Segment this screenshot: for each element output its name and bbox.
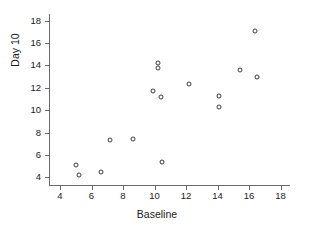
- y-tick-label: 6: [19, 150, 41, 160]
- data-point: [151, 89, 156, 94]
- y-tick-mark: [45, 43, 49, 44]
- y-tick-mark: [45, 65, 49, 66]
- data-point: [160, 159, 165, 164]
- x-tick-label: 16: [244, 191, 255, 201]
- y-tick-mark: [45, 110, 49, 111]
- data-point: [76, 172, 81, 177]
- data-point: [253, 28, 258, 33]
- x-tick-label: 6: [89, 191, 94, 201]
- scatter-plot: 4681012141618 4681012141618 Baseline Day…: [0, 0, 314, 230]
- data-point: [187, 82, 192, 87]
- y-tick-label: 16: [19, 38, 41, 48]
- y-tick-label: 18: [19, 16, 41, 26]
- data-point: [237, 67, 242, 72]
- data-point: [99, 169, 104, 174]
- y-tick-label: 8: [19, 128, 41, 138]
- data-point: [130, 137, 135, 142]
- data-point: [158, 94, 163, 99]
- y-tick-mark: [45, 88, 49, 89]
- x-tick-label: 12: [181, 191, 192, 201]
- data-point: [217, 104, 222, 109]
- data-point: [73, 162, 78, 167]
- data-point: [217, 93, 222, 98]
- data-point: [108, 138, 113, 143]
- y-axis-label: Day 10: [9, 14, 21, 86]
- x-tick-label: 4: [57, 191, 62, 201]
- data-point: [254, 74, 259, 79]
- x-axis-label: Baseline: [0, 208, 314, 220]
- x-tick-label: 14: [212, 191, 223, 201]
- y-axis-line: [49, 14, 50, 186]
- y-tick-label: 12: [19, 83, 41, 93]
- y-tick-mark: [45, 177, 49, 178]
- y-tick-label: 4: [19, 172, 41, 182]
- x-tick-label: 10: [149, 191, 160, 201]
- x-tick-label: 8: [120, 191, 125, 201]
- y-tick-label: 14: [19, 60, 41, 70]
- y-tick-mark: [45, 21, 49, 22]
- data-point: [155, 65, 160, 70]
- y-tick-label: 10: [19, 105, 41, 115]
- x-tick-label: 18: [275, 191, 286, 201]
- x-axis-line: [49, 185, 290, 186]
- y-tick-mark: [45, 155, 49, 156]
- y-tick-mark: [45, 133, 49, 134]
